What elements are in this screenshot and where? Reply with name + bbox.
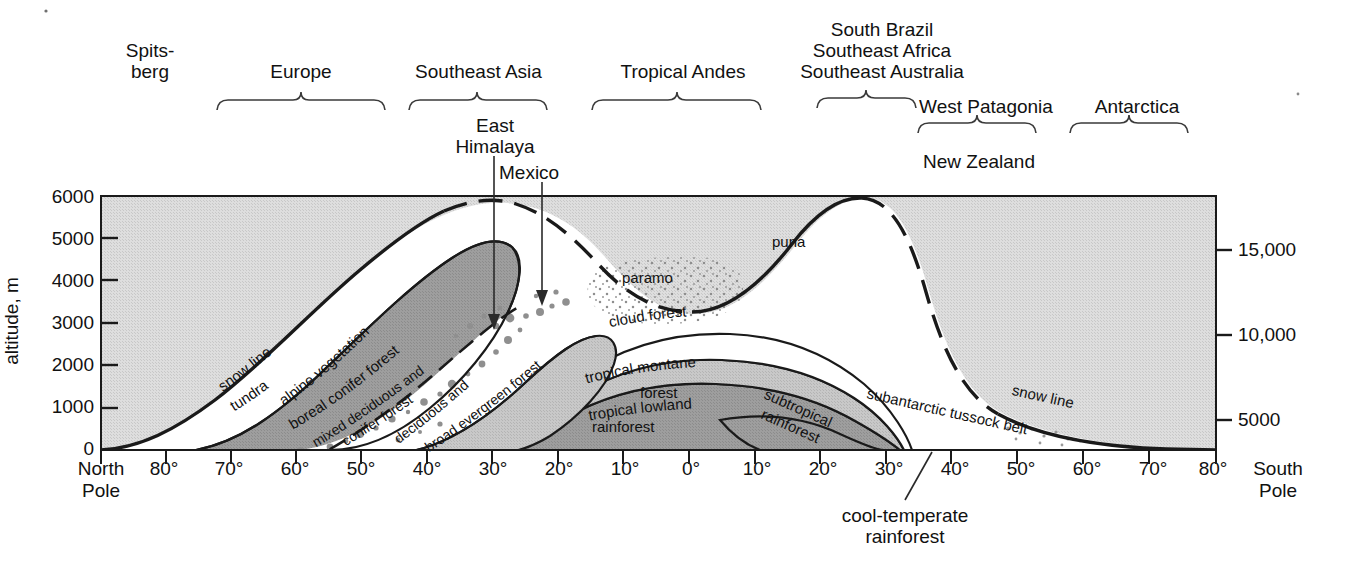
- y-ticks-right: [1216, 250, 1232, 420]
- region-brackets: [217, 90, 1188, 133]
- bracket-west-patagonia: [918, 115, 1036, 133]
- bracket-antarctica: [1070, 115, 1188, 133]
- x-ticks: [101, 450, 1216, 464]
- zone-label-paramo: paramo: [622, 269, 673, 286]
- bracket-southeast-asia: [409, 92, 547, 110]
- bracket-europe: [217, 92, 385, 110]
- leader-cool-temperate: [905, 452, 932, 500]
- scan-speck-left: [44, 9, 47, 12]
- scan-speck-right: [1297, 93, 1300, 96]
- bracket-south-brazil-group: [817, 90, 916, 108]
- figure-canvas: Spits- berg Europe Southeast Asia Tropic…: [0, 0, 1348, 563]
- zone-label-puna: puna: [772, 233, 806, 250]
- vegetation-belt-diagram: snow line tundra alpine vegetation borea…: [0, 0, 1348, 563]
- zone-label-tropical-lowland-line2: rainforest: [592, 418, 655, 435]
- plot-area: [101, 196, 1216, 462]
- bracket-tropical-andes: [592, 92, 761, 110]
